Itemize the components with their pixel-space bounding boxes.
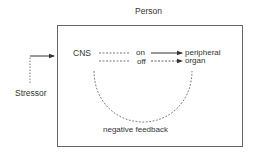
- negative-feedback-label: negative feedback: [103, 125, 168, 134]
- cns-node: CNS: [73, 49, 91, 58]
- peripheral-organ-line2: organ: [185, 56, 205, 65]
- person-label: Person: [135, 7, 162, 16]
- off-label: off: [137, 57, 146, 66]
- stressor-label: Stressor: [15, 89, 47, 98]
- on-label: on: [136, 48, 145, 57]
- negative-feedback-arc: [94, 71, 192, 122]
